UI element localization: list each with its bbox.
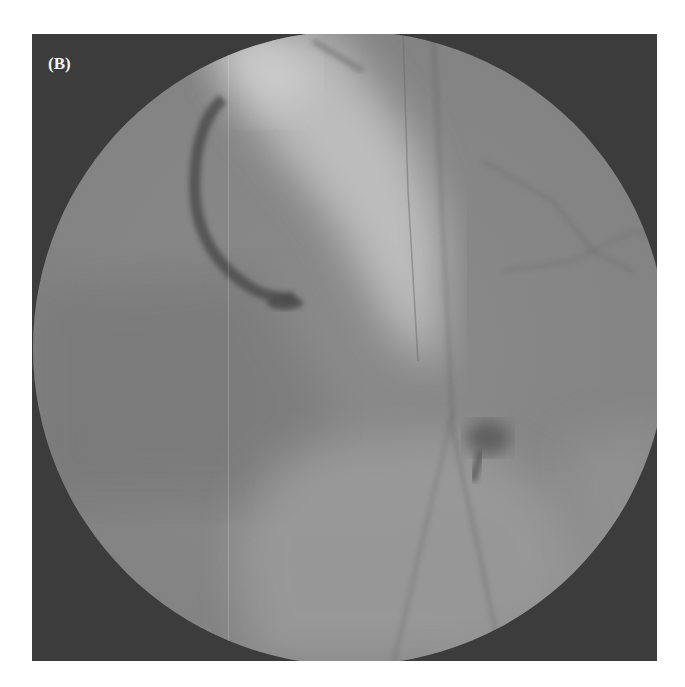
image-frame: (B) xyxy=(32,34,657,661)
fluoroscopy-field xyxy=(33,34,657,661)
anatomy-overlay xyxy=(33,34,657,661)
panel-label: (B) xyxy=(48,54,71,74)
scan-artifact-line xyxy=(228,34,229,661)
